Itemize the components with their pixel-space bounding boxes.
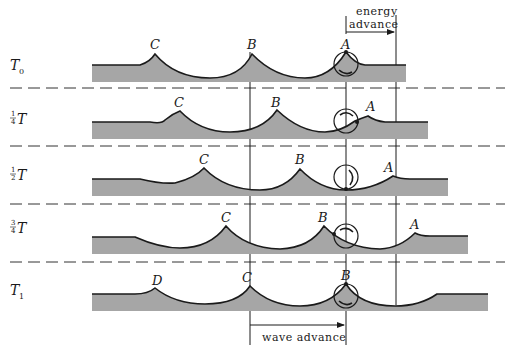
row-label-frac-num: 1 [11,166,15,174]
crest-label-a: A [409,217,419,232]
crest-label-b: B [317,210,328,225]
wave-advance-annotation: wave advance [250,325,346,344]
crest-label-a: A [383,160,393,175]
row-label-quarter-t: T [17,111,28,127]
crest-label-c: C [150,37,160,52]
row-label-frac-num: 1 [11,110,15,118]
energy-advance-label-line1: energy [356,5,398,18]
crest-label-b: B [246,37,257,52]
particle-dot-icon [332,232,336,236]
wave-diagram: energy advance wave advance T 0 C B A 1 … [0,0,511,355]
energy-advance-annotation: energy advance [346,5,399,34]
row-label-frac-den: 4 [11,118,16,126]
particle-dot-icon [344,50,348,54]
energy-advance-label-line2: advance [349,18,399,31]
row-label-frac-den: 2 [11,174,15,182]
row-label-frac-num: 3 [11,219,15,227]
crest-label-b: B [270,95,281,110]
row-t1: T 1 D C B [10,268,488,311]
row-quarter-t: 1 4 T C B A [10,95,428,139]
row-label-t1-sub: 1 [19,292,24,301]
crest-label-c: C [221,210,231,225]
particle-dot-icon [344,282,348,286]
crest-label-b: B [294,152,305,167]
row-label-half-t: T [17,167,28,183]
crest-label-a: A [340,37,350,52]
particle-dot-icon [355,120,359,124]
wave-advance-label: wave advance [262,331,346,344]
crest-label-b: B [340,268,351,283]
row-three-quarter-t: 3 4 T C B A [10,210,468,254]
particle-dot-icon [344,187,348,191]
row-half-t: 1 2 T C B A [10,152,448,196]
orbit-arrow-icon [349,170,353,185]
crest-label-d: D [151,273,163,288]
crest-label-c: C [199,152,209,167]
crest-label-c: C [174,95,184,110]
row-label-frac-den: 4 [11,227,16,235]
crest-label-a: A [365,99,375,114]
row-label-three-quarter-t: T [17,220,28,236]
row-label-t0-sub: 0 [19,67,24,76]
row-t0: T 0 C B A [10,37,406,82]
crest-label-c: C [242,270,252,285]
